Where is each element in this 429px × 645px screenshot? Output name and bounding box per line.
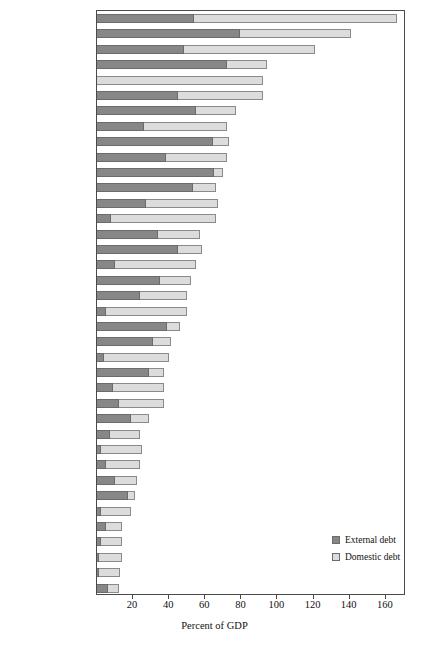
bar-row: EAP-Singapore [97,73,404,89]
bar-segment-domestic [119,399,164,408]
bar-row: EAP-Philippines [97,196,404,212]
x-axis: 20406080100120140160 [96,595,405,601]
external-debt-swatch [332,536,340,544]
bar-row: MENA-Algeria [97,227,404,243]
bar-segment-domestic [131,414,149,423]
bar-segment-external [97,260,115,269]
bar-row: MENA-Jordan [97,57,404,73]
plot-area: MENA-LebanonECA-TurkeyLAC-JamaicaMENA-Jo… [96,10,405,595]
bar-row: LAC-Peru [97,334,404,350]
stacked-bar [97,153,227,162]
stacked-bar [97,368,164,377]
bar-segment-domestic [97,76,263,85]
stacked-bar [97,29,351,38]
bar-segment-domestic [106,307,187,316]
legend-label-domestic-debt: Domestic debt [345,550,400,564]
stacked-bar [97,507,131,516]
stacked-bar [97,14,397,23]
bar-row: ECA-Bulgaria [97,134,404,150]
bar-segment-external [97,291,140,300]
bar-segment-domestic [193,183,216,192]
stacked-bar [97,537,122,546]
bar-segment-external [97,122,144,131]
stacked-bar [97,260,196,269]
bar-segment-external [97,584,108,593]
stacked-bar [97,168,223,177]
stacked-bar [97,183,216,192]
bar-segment-domestic [184,45,316,54]
bar-row: LAC-Argentina [97,365,404,381]
bar-row: ECA-Turkey [97,26,404,42]
bar-row: MENA-Yemen [97,180,404,196]
bar-segment-domestic [106,522,122,531]
bar-segment-domestic [213,137,229,146]
bar-row: ECA-Hungary [97,304,404,320]
stacked-bar [97,230,200,239]
stacked-bar [97,45,315,54]
legend-label-external-debt: External debt [345,533,396,547]
x-axis-tick-label: 160 [377,599,393,610]
bar-row: LAC-Panama [97,103,404,119]
bar-segment-external [97,337,153,346]
bar-segment-external [97,353,104,362]
bar-segment-external [97,460,106,469]
bar-segment-external [97,45,184,54]
bar-segment-domestic [111,214,216,223]
stacked-bar [97,122,227,131]
bar-segment-external [97,476,115,485]
bar-segment-external [97,183,193,192]
stacked-bar [97,383,164,392]
bar-row: LAC-Honduras [97,165,404,181]
bar-row: EAP-Malaysia [97,350,404,366]
bar-segment-external [97,522,106,531]
bar-segment-domestic [101,445,143,454]
bar-segment-domestic [178,245,201,254]
stacked-bar [97,476,137,485]
bar-row: LAC-Brazil [97,257,404,273]
bar-row: LAC-Colombia [97,288,404,304]
bar-segment-external [97,137,213,146]
stacked-bar [97,322,180,331]
bar-segment-domestic [115,476,137,485]
bar-segment-domestic [106,460,140,469]
stacked-bar [97,430,140,439]
bar-row: ECA-Czech Republic [97,565,404,581]
stacked-bar [97,399,164,408]
bar-segment-domestic [196,106,236,115]
stacked-bar [97,137,229,146]
bar-segment-domestic [104,353,169,362]
stacked-bar [97,91,263,100]
bar-segment-external [97,430,110,439]
stacked-bar [97,445,142,454]
bar-segment-domestic [153,337,171,346]
bar-segment-domestic [110,430,141,439]
x-axis-tick-label: 80 [235,599,246,610]
bar-row: EAP-Thailand [97,473,404,489]
x-axis-tick-label: 120 [305,599,321,610]
bar-row: MENA-Egypt [97,211,404,227]
stacked-bar [97,199,218,208]
stacked-bar [97,522,122,531]
bar-row: ECA-Moldova [97,242,404,258]
bar-segment-external [97,414,131,423]
stacked-bar [97,307,187,316]
bar-segment-domestic [115,260,196,269]
bar-segment-domestic [146,199,218,208]
legend: External debt Domestic debt [332,533,400,567]
bar-row: ECA-Russia [97,319,404,335]
bar-segment-domestic [194,14,396,23]
bar-row: ECA-Slovenia [97,427,404,443]
bar-segment-domestic [140,291,187,300]
bar-segment-external [97,60,227,69]
stacked-bar [97,460,140,469]
stacked-bar [97,214,216,223]
stacked-bar [97,353,169,362]
x-axis-tick-label: 140 [341,599,357,610]
bar-row: LAC-Venezuela [97,504,404,520]
bar-row: LAC-Jamaica [97,42,404,58]
bar-segment-domestic [128,491,135,500]
bar-segment-external [97,399,119,408]
bar-segment-domestic [158,230,200,239]
bar-row: MENA-Lebanon [97,11,404,27]
bar-segment-domestic [214,168,223,177]
